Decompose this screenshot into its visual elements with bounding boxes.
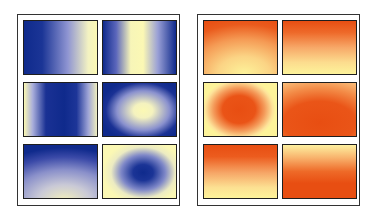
blue-gradient-panel [17, 14, 180, 206]
tile-blue-0 [23, 20, 98, 75]
tile-orange-2 [203, 82, 278, 137]
tile-orange-5 [282, 144, 357, 199]
tile-blue-3 [102, 82, 177, 137]
tile-orange-1 [282, 20, 357, 75]
tile-blue-1 [102, 20, 177, 75]
tile-blue-2 [23, 82, 98, 137]
tile-blue-4 [23, 144, 98, 199]
tile-orange-4 [203, 144, 278, 199]
tile-orange-3 [282, 82, 357, 137]
orange-gradient-panel [197, 14, 360, 206]
tile-orange-0 [203, 20, 278, 75]
tile-blue-5 [102, 144, 177, 199]
